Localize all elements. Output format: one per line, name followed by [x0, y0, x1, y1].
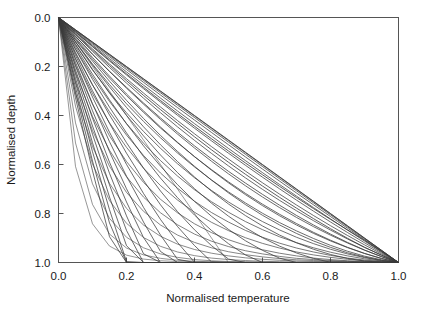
- figure-canvas: 0.00.20.40.60.81.0 0.00.20.40.60.81.0 No…: [0, 0, 422, 312]
- curve-family: [59, 18, 399, 263]
- profile-curve: [59, 18, 399, 263]
- y-tick-label: 1.0: [35, 257, 51, 269]
- y-axis-title: Normalised depth: [5, 95, 17, 185]
- y-tick-label: 0.0: [35, 12, 51, 24]
- y-tick-label: 0.4: [35, 110, 52, 122]
- plot-svg: 0.00.20.40.60.81.0 0.00.20.40.60.81.0 No…: [0, 0, 422, 312]
- x-tick-label: 1.0: [391, 270, 407, 282]
- y-tick-label: 0.2: [35, 61, 51, 73]
- x-tick-label: 0.4: [187, 270, 204, 282]
- y-axis-tick-labels: 0.00.20.40.60.81.0: [35, 12, 52, 269]
- x-tick-label: 0.0: [51, 270, 67, 282]
- x-tick-label: 0.2: [119, 270, 135, 282]
- y-tick-label: 0.6: [35, 159, 51, 171]
- x-tick-label: 0.6: [255, 270, 271, 282]
- x-tick-label: 0.8: [323, 270, 339, 282]
- x-axis-title: Normalised temperature: [166, 292, 289, 304]
- x-axis-tick-labels: 0.00.20.40.60.81.0: [51, 270, 407, 282]
- y-tick-label: 0.8: [35, 208, 51, 220]
